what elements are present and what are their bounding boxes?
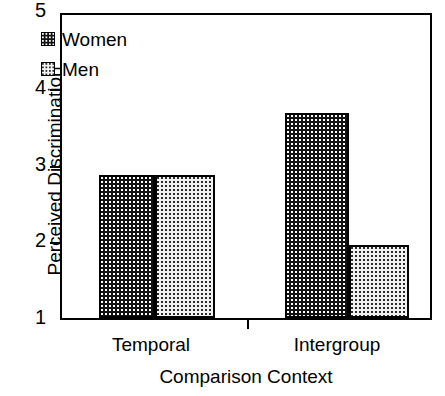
bar-intergroup-men [349,245,409,318]
y-tick-label-3: 3 [35,154,46,174]
x-axis-title: Comparison Context [60,366,432,388]
y-tick-label-2: 2 [35,230,46,250]
x-tick-label-intergroup: Intergroup [294,334,381,356]
legend-item-men: Men [41,58,127,80]
legend-swatch-men-icon [41,62,55,76]
legend: Women Men [41,28,127,88]
legend-item-women: Women [41,28,127,50]
y-tick-mark-2 [50,242,60,244]
y-tick-mark-4 [50,89,60,91]
x-tick-label-temporal: Temporal [112,334,190,356]
x-tick-mark-center [247,320,249,329]
bar-intergroup-women [285,113,349,318]
legend-label-women: Women [62,30,127,49]
legend-swatch-women-icon [41,32,55,46]
bar-chart-figure: Perceived Discrimination 5 4 3 2 1 [0,0,445,396]
bar-temporal-women [99,175,155,318]
y-tick-label-1: 1 [35,307,46,327]
bar-temporal-men [155,175,215,318]
legend-label-men: Men [62,60,99,79]
y-tick-label-5: 5 [35,0,46,20]
y-tick-mark-3 [50,166,60,168]
